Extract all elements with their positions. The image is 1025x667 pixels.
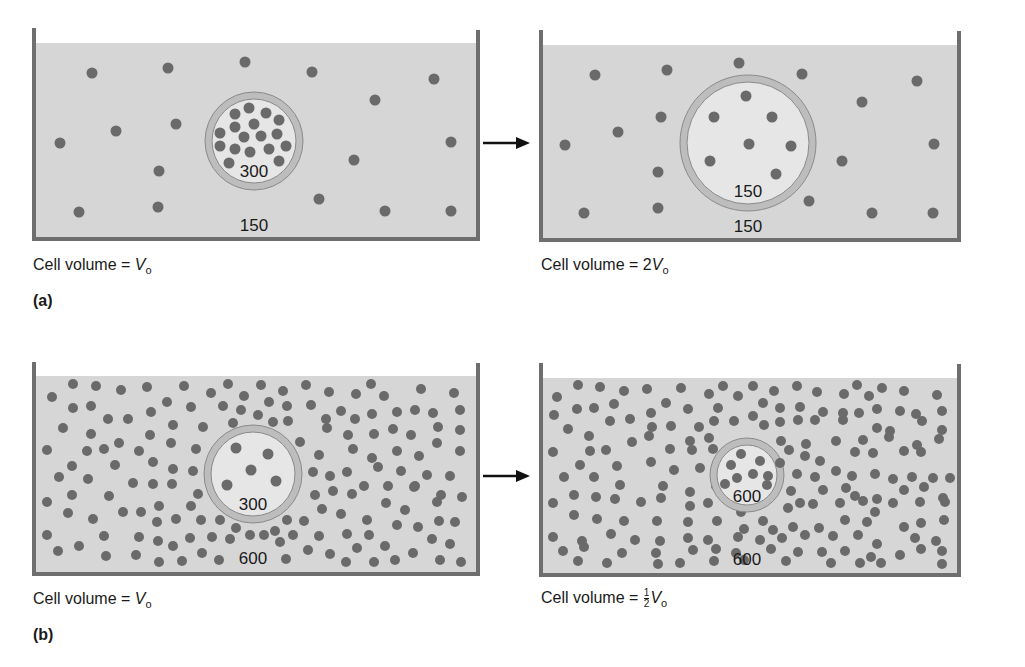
volume-variable: V xyxy=(650,589,661,606)
osmosis-diagram: 300 150 150 150 xyxy=(0,0,1025,667)
caption-text: Cell volume = xyxy=(33,590,135,607)
inside-concentration-a-before: 300 xyxy=(240,162,268,181)
caption-text: Cell volume = xyxy=(541,256,643,273)
right-arrow-icon xyxy=(483,137,530,149)
panel-b-before xyxy=(34,362,478,574)
caption-a-after: Cell volume = 2Vo xyxy=(541,256,669,276)
panel-a-before xyxy=(34,28,478,239)
inside-concentration-b-before: 300 xyxy=(239,495,267,514)
outside-concentration-b-after: 600 xyxy=(733,550,761,569)
volume-variable: V xyxy=(135,256,146,273)
volume-variable: V xyxy=(135,590,146,607)
caption-b-before: Cell volume = Vo xyxy=(33,590,152,610)
panel-a-after xyxy=(541,30,959,240)
volume-subscript: o xyxy=(146,264,152,276)
fraction-denominator: 2 xyxy=(644,599,650,609)
caption-text: Cell volume = xyxy=(33,256,135,273)
caption-b-after: Cell volume = 12Vo xyxy=(541,588,667,609)
panel-b-after xyxy=(541,363,959,575)
outside-concentration-a-before: 150 xyxy=(240,216,268,235)
caption-a-before: Cell volume = Vo xyxy=(33,256,152,276)
panel-label-a: (a) xyxy=(33,292,53,310)
inside-concentration-a-after: 150 xyxy=(734,182,762,201)
volume-subscript: o xyxy=(662,264,668,276)
outside-concentration-a-after: 150 xyxy=(734,217,762,236)
fraction-one-half: 12 xyxy=(644,588,650,609)
caption-text: Cell volume = xyxy=(541,589,643,606)
volume-coefficient: 2 xyxy=(643,256,652,273)
right-arrow-icon xyxy=(483,470,530,482)
outside-concentration-b-before: 600 xyxy=(239,549,267,568)
volume-variable: V xyxy=(652,256,663,273)
volume-subscript: o xyxy=(661,597,667,609)
volume-subscript: o xyxy=(146,598,152,610)
inside-concentration-b-after: 600 xyxy=(733,487,761,506)
panel-label-b: (b) xyxy=(33,626,53,644)
